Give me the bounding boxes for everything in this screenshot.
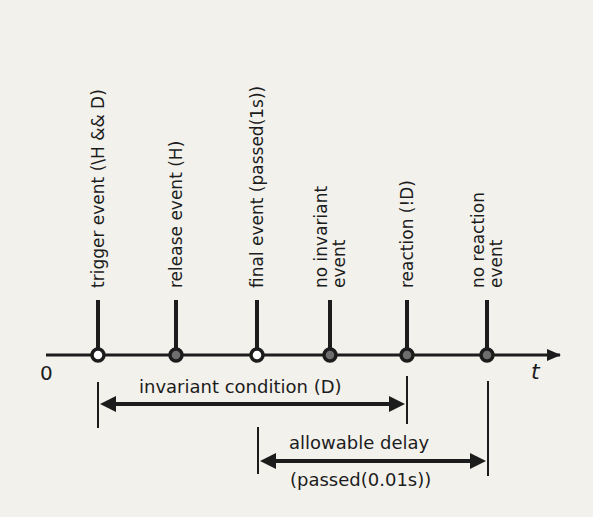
- event-label-no-invariant-line1: no invariant: [312, 186, 330, 288]
- marker-final: [251, 349, 263, 361]
- event-label-final: final event (passed(1s)): [248, 86, 266, 288]
- event-label-no-reaction-line2: event: [487, 192, 505, 288]
- marker-release: [170, 349, 182, 361]
- marker-no-reaction: [481, 349, 493, 361]
- event-label-trigger: trigger event (\H && D): [89, 89, 107, 288]
- marker-no-invariant: [324, 349, 336, 361]
- time-label: t: [531, 359, 540, 384]
- event-label-no-reaction: no reaction event: [469, 192, 505, 288]
- interval1-label: invariant condition (D): [139, 376, 342, 397]
- marker-trigger: [92, 349, 104, 361]
- marker-reaction: [401, 349, 413, 361]
- event-label-no-invariant-line2: event: [330, 186, 348, 288]
- origin-label: 0: [40, 361, 53, 385]
- event-label-no-invariant: no invariant event: [312, 186, 348, 288]
- event-label-release: release event (H): [167, 141, 185, 288]
- interval2-sublabel: (passed(0.01s)): [290, 469, 431, 490]
- event-label-reaction: reaction (!D): [398, 180, 416, 288]
- interval2-label: allowable delay: [289, 432, 429, 453]
- event-label-no-reaction-line1: no reaction: [469, 192, 487, 288]
- event-ticks: [98, 300, 487, 352]
